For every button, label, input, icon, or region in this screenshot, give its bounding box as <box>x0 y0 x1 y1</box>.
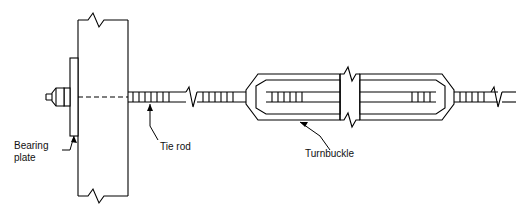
tie-rod-right <box>454 87 516 107</box>
break-symbol-2 <box>340 67 360 127</box>
tie-rod-assembly-drawing <box>0 0 524 212</box>
turnbuckle-right <box>360 74 454 120</box>
break-symbol-3 <box>491 87 502 107</box>
label-turnbuckle: Turnbuckle <box>305 148 354 160</box>
label-tie-rod: Tie rod <box>160 141 191 153</box>
masonry-wall <box>78 13 128 203</box>
label-bearing-plate: Bearing plate <box>14 140 48 164</box>
turnbuckle-left <box>246 69 352 120</box>
diagram-canvas: Bearing plate Tie rod Turnbuckle <box>0 0 524 212</box>
thread-marks-mid <box>203 92 233 102</box>
break-symbol-1 <box>186 87 197 117</box>
tie-rod <box>78 87 246 117</box>
thread-marks-right <box>460 92 484 102</box>
thread-marks-left <box>133 92 169 102</box>
bearing-plate <box>46 58 78 136</box>
